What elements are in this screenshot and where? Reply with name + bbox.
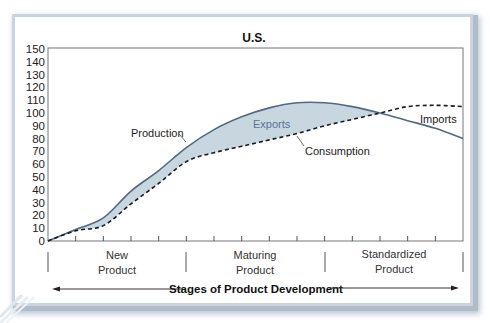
y-tick-label: 150 bbox=[26, 43, 45, 55]
stage-maturing-line2: Product bbox=[236, 264, 274, 276]
y-tick-label: 60 bbox=[32, 158, 45, 170]
consumption-label: Consumption bbox=[305, 145, 370, 157]
stage-new-line2: Product bbox=[98, 264, 136, 276]
y-tick-label: 0 bbox=[39, 235, 45, 247]
y-tick-label: 90 bbox=[32, 120, 45, 132]
y-tick-label: 130 bbox=[26, 69, 45, 81]
y-tick-label: 110 bbox=[27, 94, 45, 106]
y-tick-label: 50 bbox=[32, 171, 45, 183]
imports-label: Imports bbox=[420, 113, 457, 125]
stage-standardized-line2: Product bbox=[375, 263, 413, 275]
stage-new-line1: New bbox=[106, 249, 128, 261]
exports-label: Exports bbox=[253, 118, 291, 130]
y-tick-label: 70 bbox=[32, 145, 45, 157]
chart-title: U.S. bbox=[242, 31, 265, 45]
y-tick-label: 140 bbox=[26, 56, 45, 68]
x-axis-ticks bbox=[76, 236, 436, 241]
product-life-cycle-chart: U.S. 01020304050607080901001101201301401… bbox=[0, 0, 490, 323]
y-tick-label: 10 bbox=[32, 222, 45, 234]
stage-maturing-line1: Maturing bbox=[234, 249, 277, 261]
y-tick-label: 120 bbox=[26, 81, 45, 93]
y-tick-label: 20 bbox=[32, 209, 45, 221]
y-tick-label: 100 bbox=[26, 107, 45, 119]
y-axis-ticks: 0102030405060708090100110120130140150 bbox=[26, 43, 45, 247]
consumption-leader bbox=[297, 136, 304, 146]
stage-standardized-line1: Standardized bbox=[362, 248, 427, 260]
y-tick-label: 80 bbox=[32, 133, 45, 145]
y-tick-label: 40 bbox=[32, 184, 45, 196]
production-label: Production bbox=[131, 127, 184, 139]
exports-area bbox=[48, 102, 380, 241]
arrow-right-icon bbox=[451, 286, 459, 291]
y-tick-label: 30 bbox=[32, 197, 45, 209]
arrow-left-icon bbox=[52, 287, 60, 292]
x-axis-title: Stages of Product Development bbox=[169, 283, 343, 295]
